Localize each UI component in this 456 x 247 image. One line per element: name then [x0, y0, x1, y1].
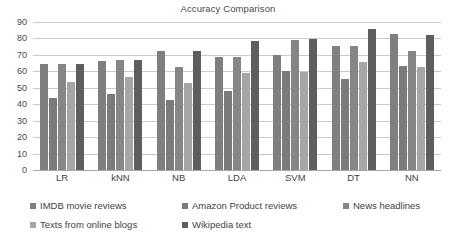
bar [300, 72, 308, 170]
bar [184, 83, 192, 170]
legend-item[interactable]: Amazon Product reviews [182, 200, 343, 211]
y-tick-label: 50 [17, 83, 27, 92]
legend-swatch-icon [182, 203, 188, 209]
legend-label: Wikipedia text [192, 219, 251, 230]
bar [166, 100, 174, 170]
legend-label: IMDB movie reviews [40, 200, 127, 211]
legend-item[interactable]: Texts from online blogs [30, 219, 182, 230]
y-axis-tick-labels: 0102030405060708090 [0, 22, 31, 170]
legend-swatch-icon [343, 203, 349, 209]
bar [67, 82, 75, 170]
bar [251, 41, 259, 170]
bar [368, 29, 376, 170]
bar [309, 39, 317, 170]
y-tick-label: 60 [17, 67, 27, 76]
y-tick-label: 40 [17, 100, 27, 109]
legend-item[interactable]: IMDB movie reviews [30, 200, 182, 211]
y-tick-label: 0 [22, 166, 27, 175]
bar [408, 51, 416, 170]
bar-group [208, 22, 266, 170]
bar [224, 91, 232, 170]
bar-group [383, 22, 441, 170]
y-tick-label: 10 [17, 149, 27, 158]
x-tick-label: DT [324, 172, 382, 188]
bar [350, 46, 358, 170]
bar [125, 77, 133, 170]
bar-groups [33, 22, 441, 170]
bar-group [324, 22, 382, 170]
axis-baseline [33, 170, 441, 171]
x-tick-label: SVM [266, 172, 324, 188]
accuracy-comparison-chart: Accuracy Comparison 0102030405060708090 … [0, 0, 456, 247]
y-tick-label: 90 [17, 18, 27, 27]
bar [399, 66, 407, 170]
bar [134, 60, 142, 170]
bar-group [266, 22, 324, 170]
bar [107, 94, 115, 170]
bar-group [33, 22, 91, 170]
bar [282, 71, 290, 170]
bar [417, 67, 425, 170]
legend-row-1: IMDB movie reviewsAmazon Product reviews… [30, 196, 450, 215]
bar [215, 57, 223, 170]
bar [273, 55, 281, 170]
bar [341, 79, 349, 170]
x-axis-tick-labels: LRkNNNBLDASVMDTNN [33, 172, 441, 188]
bar [193, 51, 201, 170]
legend-label: Texts from online blogs [40, 219, 137, 230]
legend-label: Amazon Product reviews [192, 200, 297, 211]
y-tick-label: 70 [17, 50, 27, 59]
legend-item[interactable]: News headlines [343, 200, 420, 211]
bar [116, 60, 124, 170]
bar [242, 73, 250, 170]
bar-group [150, 22, 208, 170]
legend-swatch-icon [182, 222, 188, 228]
x-tick-label: NN [383, 172, 441, 188]
y-tick-label: 80 [17, 34, 27, 43]
bar [233, 57, 241, 170]
legend-item[interactable]: Wikipedia text [182, 219, 251, 230]
plot-area [33, 22, 441, 170]
bar [359, 62, 367, 170]
y-tick-label: 20 [17, 133, 27, 142]
y-tick-label: 30 [17, 116, 27, 125]
bar [40, 64, 48, 170]
bar [76, 64, 84, 170]
bar-group [91, 22, 149, 170]
bar [58, 64, 66, 170]
bar [426, 35, 434, 171]
chart-title: Accuracy Comparison [0, 3, 456, 14]
bar [98, 61, 106, 170]
legend-swatch-icon [30, 222, 36, 228]
legend-row-2: Texts from online blogsWikipedia text [30, 215, 450, 234]
bar [332, 46, 340, 170]
legend-label: News headlines [353, 200, 420, 211]
chart-legend: IMDB movie reviewsAmazon Product reviews… [30, 196, 450, 234]
x-tick-label: NB [150, 172, 208, 188]
bar [49, 98, 57, 170]
x-tick-label: kNN [91, 172, 149, 188]
x-tick-label: LR [33, 172, 91, 188]
bar [390, 34, 398, 170]
bar [291, 40, 299, 170]
x-tick-label: LDA [208, 172, 266, 188]
bar [175, 67, 183, 170]
bar [157, 51, 165, 170]
legend-swatch-icon [30, 203, 36, 209]
